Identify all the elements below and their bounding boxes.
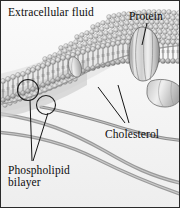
label-extracellular-fluid: Extracellular fluid [8,6,94,18]
label-cholesterol: Cholesterol [105,128,159,140]
membrane-diagram-figure: Extracellular fluid Protein Cholesterol … [0,0,180,208]
label-phospholipid-line1: Phospholipid [8,164,70,176]
label-phospholipid-bilayer: Phospholipid bilayer [8,164,70,188]
label-protein: Protein [129,10,163,22]
label-phospholipid-line2: bilayer [8,176,70,188]
peripheral-protein [147,79,180,107]
